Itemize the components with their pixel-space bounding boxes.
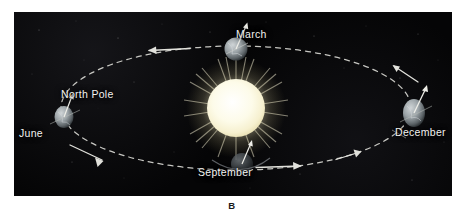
earth-december: [400, 85, 432, 127]
label-september: September: [198, 166, 252, 178]
arrow-right-up: [393, 65, 419, 82]
label-december: December: [395, 126, 446, 138]
arrow-bottom-right: [336, 150, 362, 160]
figure-root: March North Pole June December September…: [0, 0, 464, 219]
panel-caption: B: [0, 200, 464, 211]
arrow-bottom-left: [70, 145, 104, 167]
label-north-pole: North Pole: [61, 88, 114, 100]
sun-body: [184, 56, 288, 160]
label-march: March: [236, 28, 267, 40]
label-june: June: [19, 127, 43, 139]
